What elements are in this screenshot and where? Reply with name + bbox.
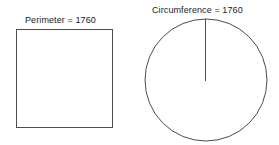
geometry-figure-canvas: Perimeter = 1760 Circumference = 1760 xyxy=(0,0,279,145)
square-shape xyxy=(17,30,113,128)
shapes-layer xyxy=(0,0,279,145)
